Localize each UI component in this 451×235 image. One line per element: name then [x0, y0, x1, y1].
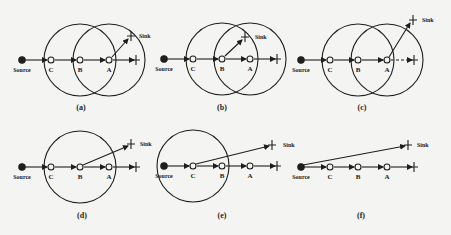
node-c — [190, 163, 196, 169]
node-b-label: B — [78, 174, 83, 181]
source-label: Source — [292, 67, 310, 73]
panel-f — [298, 140, 418, 172]
node-a-label: A — [384, 67, 389, 74]
panel-c — [298, 15, 423, 96]
node-a — [106, 57, 112, 63]
panel-caption: (e) — [218, 212, 227, 220]
end-cross-icon — [410, 162, 418, 172]
node-b-label: B — [220, 66, 225, 73]
sink-cross-icon — [404, 140, 412, 150]
node-b — [77, 164, 83, 170]
node-b — [355, 57, 361, 63]
node-c — [327, 57, 333, 63]
node-c-label: C — [48, 67, 53, 74]
sink-label: Sink — [139, 33, 151, 39]
source-node — [19, 57, 25, 63]
node-b-label: B — [356, 174, 361, 181]
node-b — [77, 57, 83, 63]
source-node — [298, 57, 304, 63]
node-a-label: A — [247, 66, 252, 73]
node-a-label: A — [384, 174, 389, 181]
node-b-label: B — [78, 67, 83, 74]
node-a-label: A — [106, 174, 111, 181]
panel-caption: (f) — [357, 212, 365, 220]
source-label: Source — [292, 174, 310, 180]
node-c-label: C — [327, 174, 332, 181]
source-node — [161, 56, 167, 62]
source-label: Source — [155, 66, 173, 72]
node-a — [247, 163, 253, 169]
diagram-canvas — [0, 0, 451, 235]
end-cross-icon — [132, 55, 140, 65]
panel-a — [19, 24, 145, 96]
panel-b — [161, 23, 286, 95]
node-b-label: B — [220, 173, 225, 180]
node-b — [355, 164, 361, 170]
panel-caption: (a) — [76, 104, 85, 112]
sink-label: Sink — [283, 142, 295, 148]
node-a — [384, 164, 390, 170]
panel-e — [157, 130, 281, 202]
panel-caption: (d) — [77, 212, 87, 220]
node-c — [48, 57, 54, 63]
node-b — [219, 163, 225, 169]
panel-d — [19, 131, 140, 203]
node-a-label: A — [247, 173, 252, 180]
panel-caption: (c) — [358, 104, 367, 112]
routing-diagram-figure: Source C B A Sink (a) Source C B A Sink … — [0, 0, 451, 235]
node-c-label: C — [327, 67, 332, 74]
end-cross-icon — [273, 54, 281, 64]
node-c — [48, 164, 54, 170]
source-label: Source — [155, 173, 173, 179]
node-c-label: C — [48, 174, 53, 181]
sink-cross-icon — [127, 139, 135, 149]
node-c — [327, 164, 333, 170]
node-c-label: C — [190, 66, 195, 73]
node-a — [106, 164, 112, 170]
node-b-label: B — [356, 67, 361, 74]
source-node — [161, 163, 167, 169]
node-a-label: A — [106, 67, 111, 74]
node-c — [190, 56, 196, 62]
source-node — [298, 164, 304, 170]
sink-label: Sink — [422, 17, 434, 23]
node-c-label: C — [190, 173, 195, 180]
source-label: Source — [13, 174, 31, 180]
source-node — [19, 164, 25, 170]
end-cross-icon — [410, 55, 418, 65]
panel-caption: (b) — [217, 104, 227, 112]
source-label: Source — [13, 67, 31, 73]
end-cross-icon — [273, 161, 281, 171]
node-a — [247, 56, 253, 62]
node-a — [384, 57, 390, 63]
sink-label: Sink — [255, 34, 267, 40]
sink-label: Sink — [417, 142, 429, 148]
end-cross-icon — [132, 162, 140, 172]
sink-label: Sink — [140, 141, 152, 147]
sink-cross-icon — [268, 140, 276, 150]
node-b — [219, 56, 225, 62]
